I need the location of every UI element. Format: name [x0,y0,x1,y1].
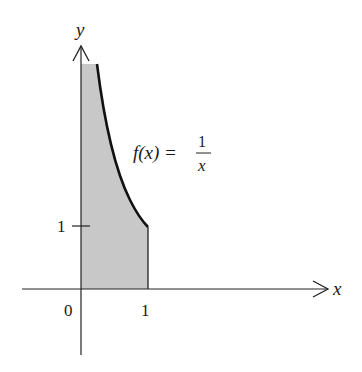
y-axis-label: y [74,19,85,40]
x-tick-label-1: 1 [141,301,150,320]
shaded-area [81,64,148,289]
plot: y x 0 1 1 f(x) = 1 x [0,0,362,372]
function-denominator: x [197,156,206,175]
figure: y x 0 1 1 f(x) = 1 x [0,0,362,372]
y-tick-label-1: 1 [57,217,66,236]
function-lhs: f(x) = [133,142,177,164]
x-tick-label-0: 0 [64,301,73,320]
function-numerator: 1 [198,133,206,150]
x-axis-label: x [332,278,342,299]
